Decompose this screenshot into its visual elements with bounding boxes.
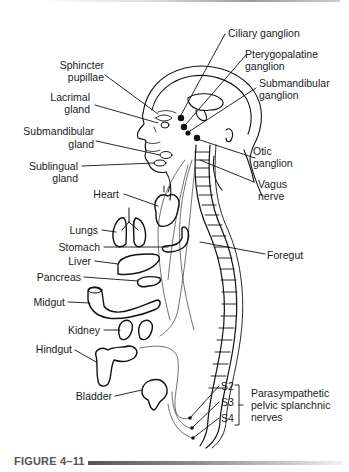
bladder-shape [142, 380, 167, 411]
label-pterygopalatine-ganglion-line2: ganglion [245, 60, 285, 72]
hindgut-shape [96, 346, 137, 386]
label-pancreas: Pancreas [10, 271, 81, 283]
label-pelvic-splanchnic-line3: nerves [251, 411, 283, 423]
label-submandibular-gland-line2: gland [10, 138, 94, 150]
organs [88, 186, 189, 410]
label-midgut: Midgut [10, 296, 65, 308]
label-ciliary-ganglion: Ciliary ganglion [228, 27, 300, 39]
label-submandibular-gland-line1: Submandibular [10, 125, 94, 137]
glands [154, 122, 172, 166]
label-otic-ganglion-line2: ganglion [253, 157, 293, 169]
pelvic-nerve-paths [140, 346, 192, 438]
label-vagus-nerve-line2: nerve [258, 190, 284, 202]
label-liver: Liver [40, 255, 91, 267]
kidney-left-shape [119, 320, 133, 339]
label-foregut: Foregut [267, 249, 303, 261]
otic-ganglion-dot [194, 135, 200, 141]
label-pelvic-splanchnic-line1: Parasympathetic [251, 387, 329, 399]
pancreas-shape [138, 277, 161, 287]
label-lacrimal-gland-line1: Lacrimal [20, 91, 90, 103]
label-stomach: Stomach [40, 241, 100, 253]
label-kidney: Kidney [40, 324, 100, 336]
lung-right-shape [134, 218, 146, 247]
label-pterygopalatine-ganglion-line1: Pterygopalatine [245, 48, 318, 60]
ganglia [178, 115, 200, 141]
pterygopalatine-ganglion-dot [181, 124, 187, 130]
kidney-right-shape [139, 320, 153, 339]
label-sublingual-gland-line2: gland [10, 172, 78, 184]
head-outline [137, 66, 262, 200]
sublingual-gland-shape [154, 160, 166, 166]
label-lacrimal-gland-line2: gland [20, 103, 90, 115]
label-sphincter-pupillae-line2: pupillae [20, 71, 104, 83]
lacrimal-gland-shape [161, 122, 169, 128]
liver-shape [118, 254, 160, 275]
label-s2: S2 [221, 380, 234, 392]
label-s4: S4 [221, 412, 234, 424]
label-lungs: Lungs [40, 224, 98, 236]
label-hindgut: Hindgut [10, 343, 72, 355]
figure-caption: FIGURE 4–11 [14, 455, 85, 467]
stomach-shape [162, 227, 188, 252]
label-submandibular-ganglion-line1: Submandibular [259, 77, 330, 89]
label-vagus-nerve-line1: Vagus [258, 178, 287, 190]
label-otic-ganglion-line1: Otic [253, 145, 272, 157]
label-pelvic-splanchnic-line2: pelvic splanchnic [251, 399, 330, 411]
ciliary-ganglion-dot [178, 115, 184, 121]
label-sublingual-gland-line1: Sublingual [10, 160, 78, 172]
label-s3: S3 [221, 396, 234, 408]
label-submandibular-ganglion-line2: ganglion [259, 89, 299, 101]
label-bladder: Bladder [50, 390, 112, 402]
label-sphincter-pupillae-line1: Sphincter [20, 59, 104, 71]
submandibular-gland-shape [160, 152, 172, 159]
caption-gradient-bar [88, 461, 343, 465]
midgut-shape [88, 288, 160, 319]
label-heart: Heart [60, 188, 119, 200]
